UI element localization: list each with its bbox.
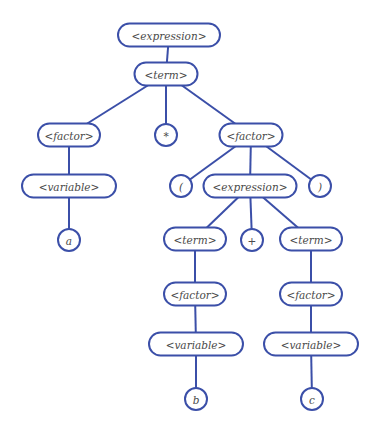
node-label: b (193, 394, 200, 406)
node-label: <variable> (39, 181, 100, 193)
tree-node-star: * (155, 124, 177, 146)
tree-node-lparen: ( (170, 175, 192, 197)
tree-node-rparen: ) (309, 175, 331, 197)
tree-node-c: c (301, 388, 323, 410)
tree-node-a: a (58, 229, 80, 251)
tree-node-b: b (185, 388, 207, 410)
tree-node-factor-c: <factor> (280, 283, 342, 306)
tree-node-term-c: <term> (280, 228, 342, 251)
tree-node-factor-b: <factor> (164, 283, 226, 306)
parse-tree-svg: <expression><term><factor>*<factor><vari… (0, 0, 378, 436)
node-label: <factor> (44, 130, 93, 142)
nodes-layer: <expression><term><factor>*<factor><vari… (22, 24, 358, 411)
tree-node-plus: + (241, 229, 263, 251)
node-label: <term> (173, 234, 216, 246)
node-label: <expression> (132, 30, 207, 42)
tree-node-var-c: <variable> (264, 333, 358, 356)
node-label: <term> (144, 69, 187, 81)
node-label: <factor> (286, 289, 335, 301)
tree-node-var-l: <variable> (22, 175, 116, 198)
node-label: <factor> (226, 130, 275, 142)
tree-node-var-b: <variable> (149, 333, 243, 356)
parse-tree-diagram: <expression><term><factor>*<factor><vari… (0, 0, 378, 436)
tree-node-term-b: <term> (164, 228, 226, 251)
tree-node-factor-l: <factor> (38, 124, 100, 147)
node-label: <variable> (166, 339, 227, 351)
node-label: * (163, 130, 169, 142)
node-label: c (309, 394, 315, 406)
node-label: <factor> (170, 289, 219, 301)
node-label: ) (317, 181, 322, 193)
node-label: <term> (289, 234, 332, 246)
node-label: <variable> (281, 339, 342, 351)
tree-node-expr-inner: <expression> (204, 175, 297, 198)
node-label: + (248, 235, 257, 247)
tree-node-term-root: <term> (135, 63, 198, 86)
node-label: a (66, 235, 72, 247)
tree-node-factor-r: <factor> (220, 124, 283, 147)
node-label: <expression> (213, 181, 288, 193)
tree-node-expr-root: <expression> (118, 24, 220, 47)
